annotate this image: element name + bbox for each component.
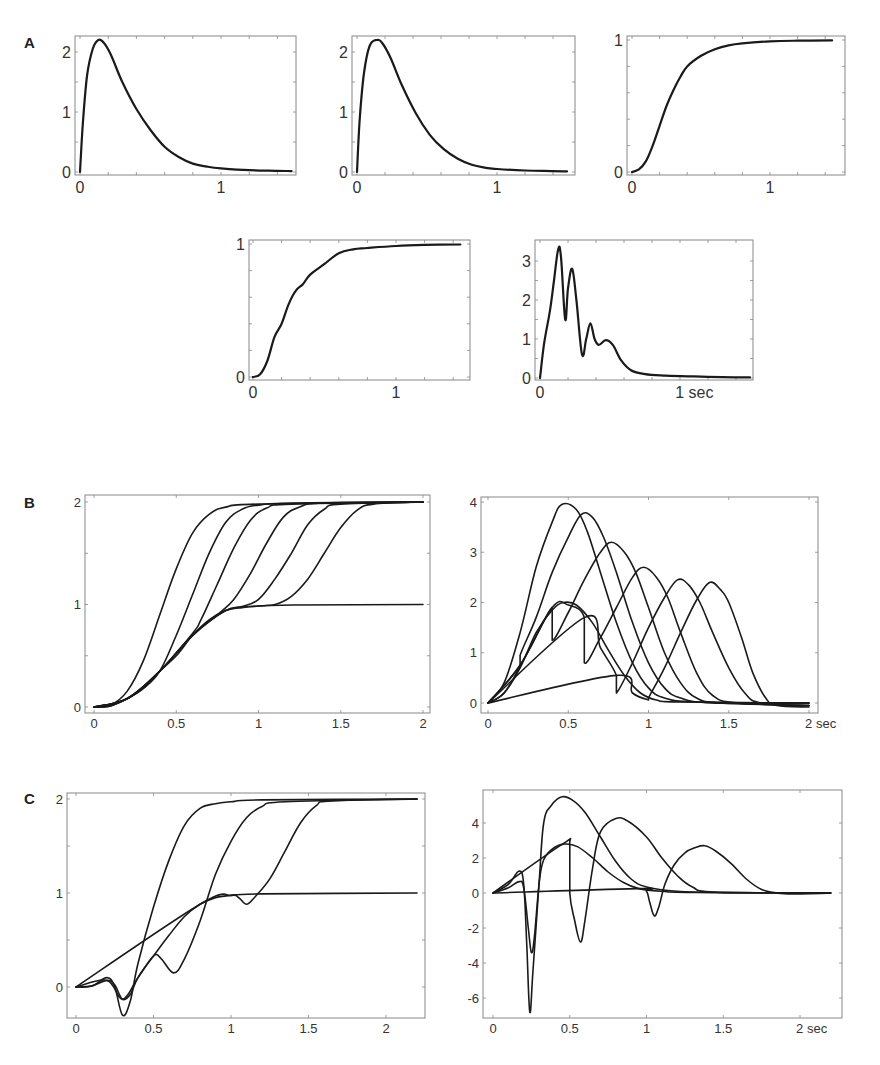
x-tick-label: 2: [419, 716, 426, 731]
plot-frame: [67, 793, 425, 1018]
x-tick-label: 1.5: [299, 1021, 317, 1036]
series-line-cumulative: [253, 245, 460, 378]
y-tick-label: 1: [236, 236, 245, 253]
x-tick-label: 0.5: [559, 716, 577, 731]
y-tick-label: 0: [522, 370, 531, 387]
x-tick-label: 1: [643, 1021, 650, 1036]
chart-b2: 00.511.52 sec01234: [470, 495, 837, 731]
y-tick-label: 1: [470, 645, 477, 660]
y-tick-label: 0: [339, 164, 348, 181]
x-tick-label: 1: [392, 384, 401, 401]
y-tick-label: 1: [339, 104, 348, 121]
panel-label-b: B: [24, 494, 35, 511]
panel-label-a: A: [24, 34, 35, 51]
y-tick-label: 1: [614, 32, 623, 49]
y-tick-label: 0: [470, 696, 477, 711]
x-tick-label: 1: [766, 179, 775, 196]
x-tick-label: 1.5: [720, 716, 738, 731]
panel-label-c: C: [24, 790, 35, 807]
plot-frame: [249, 240, 470, 380]
series-line-base: [76, 893, 417, 1000]
y-tick-label: 0: [614, 164, 623, 181]
y-tick-label: 1: [74, 597, 81, 612]
series-line-shift-0.0: [76, 799, 417, 1016]
plot-frame: [481, 497, 818, 713]
x-tick-label: 0: [628, 179, 637, 196]
plot-frame: [627, 36, 845, 175]
x-tick-label: 1.5: [714, 1021, 732, 1036]
y-tick-label: 2: [522, 292, 531, 309]
plot-frame: [352, 36, 575, 175]
series-line-shift-0.0: [488, 504, 809, 703]
series-line-cumulative: [632, 40, 832, 172]
y-tick-label: 2: [339, 44, 348, 61]
y-tick-label: 0: [472, 886, 479, 901]
x-tick-label: 0.5: [144, 1021, 162, 1036]
plot-frame: [535, 240, 753, 380]
series-line-derivative: [540, 247, 750, 378]
x-tick-label: 0: [76, 179, 85, 196]
plot-frame: [75, 36, 296, 175]
x-tick-label: 0: [353, 179, 362, 196]
series-line-shift-0.8: [488, 579, 809, 705]
y-tick-label: -6: [467, 991, 479, 1006]
series-line-response: [80, 40, 292, 172]
x-tick-label: 1: [227, 1021, 234, 1036]
series-line-shift-0.5: [493, 818, 831, 942]
x-tick-label: 0: [484, 716, 491, 731]
figure-canvas: 01012010120101010101 sec012300.511.52012…: [0, 0, 880, 1065]
series-line-shift-0.0: [493, 797, 831, 1013]
x-tick-label: 0: [90, 716, 97, 731]
y-tick-label: 3: [522, 253, 531, 270]
x-tick-label: 2 sec: [805, 716, 837, 731]
chart-b1: 00.511.52012: [74, 495, 430, 731]
x-tick-label: 2: [382, 1021, 389, 1036]
y-tick-label: 0: [62, 164, 71, 181]
y-tick-label: 4: [472, 816, 479, 831]
x-tick-label: 0: [536, 384, 545, 401]
series-line-response: [357, 40, 567, 172]
chart-a1: 01012: [62, 36, 296, 196]
chart-c1: 00.511.52012: [56, 792, 425, 1036]
x-tick-label: 0: [489, 1021, 496, 1036]
y-tick-label: 1: [62, 104, 71, 121]
x-tick-label: 1: [645, 716, 652, 731]
x-tick-label: 0: [72, 1021, 79, 1036]
series-line-shift-0.6: [488, 567, 809, 705]
chart-a5: 01 sec0123: [522, 240, 753, 401]
y-tick-label: 2: [74, 495, 81, 510]
y-tick-label: -4: [467, 956, 479, 971]
x-tick-label: 1: [255, 716, 262, 731]
x-tick-label: 1.5: [332, 716, 350, 731]
series-line-shift-0.5: [76, 799, 417, 999]
chart-c2: 00.511.52 sec420-2-4-6: [467, 790, 842, 1036]
y-tick-label: 2: [470, 595, 477, 610]
series-line-base: [94, 605, 423, 708]
y-tick-label: 1: [522, 331, 531, 348]
y-tick-label: 2: [472, 851, 479, 866]
y-tick-label: -2: [467, 921, 479, 936]
y-tick-label: 3: [470, 545, 477, 560]
chart-a3: 0101: [614, 32, 845, 196]
x-tick-label: 0: [249, 384, 258, 401]
y-tick-label: 1: [56, 886, 63, 901]
x-tick-label: 0.5: [167, 716, 185, 731]
x-tick-label: 2 sec: [796, 1021, 828, 1036]
x-tick-label: 1: [217, 179, 226, 196]
chart-a2: 01012: [339, 36, 575, 196]
x-tick-label: 1: [493, 179, 502, 196]
x-tick-label: 0.5: [561, 1021, 579, 1036]
chart-a4: 0101: [236, 236, 470, 401]
y-tick-label: 0: [236, 369, 245, 386]
y-tick-label: 0: [56, 980, 63, 995]
y-tick-label: 0: [74, 700, 81, 715]
y-tick-label: 4: [470, 495, 477, 510]
y-tick-label: 2: [62, 44, 71, 61]
y-tick-label: 2: [56, 792, 63, 807]
x-tick-label: 1 sec: [675, 384, 713, 401]
